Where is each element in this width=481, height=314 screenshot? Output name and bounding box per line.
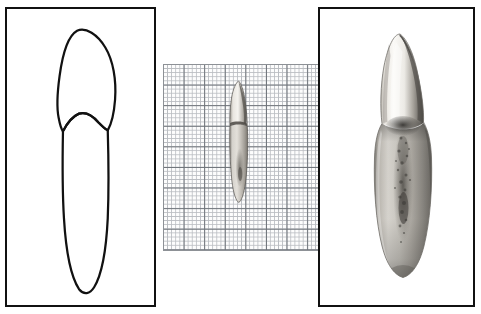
tooth-photograph-small-svg xyxy=(221,78,257,206)
tooth-photograph-large xyxy=(358,30,440,282)
tooth-photograph-large-svg xyxy=(358,30,440,282)
root-outline-path xyxy=(63,130,109,293)
tooth-line-drawing-panel xyxy=(5,7,156,307)
figure-root xyxy=(0,0,481,314)
crown-outline-path xyxy=(57,30,115,132)
tooth-photograph-small xyxy=(221,78,257,206)
tooth-photograph-panel xyxy=(318,7,475,307)
tooth-outline-drawing xyxy=(7,9,154,305)
root-dark-spot-small xyxy=(238,167,242,181)
graph-paper-grid xyxy=(163,64,320,251)
